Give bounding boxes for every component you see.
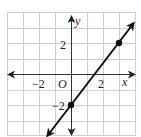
y-tick-2: 2 [60,38,66,52]
x-axis-label: x [121,75,128,89]
x-tick-2: 2 [98,77,104,91]
point-3-2 [116,40,122,46]
point-0-neg2 [68,102,74,108]
origin-label: O [58,77,67,91]
y-axis-label: y [74,14,81,28]
coordinate-plane: y x O −2 2 2 −2 [0,0,141,137]
axes [9,17,134,134]
x-tick-neg2: −2 [32,77,45,91]
y-tick-neg2: −2 [52,99,65,113]
